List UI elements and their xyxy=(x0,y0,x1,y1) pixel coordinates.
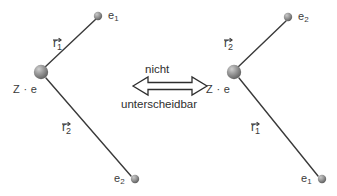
electron-sphere-icon xyxy=(131,175,139,183)
electron-sphere-icon xyxy=(318,175,326,183)
left-electron-label-e2-index: 2 xyxy=(120,177,124,186)
right-vector-line-r2 xyxy=(237,21,286,68)
double-headed-arrow-icon xyxy=(133,77,207,95)
relation-top-label: nicht xyxy=(145,64,169,76)
right-electron-label-e1: e1 xyxy=(301,173,312,184)
right-electron-label-e2: e2 xyxy=(298,11,309,22)
right-vector-label-r1-index: 1 xyxy=(255,126,260,136)
right-vector-label-r1: r1 xyxy=(251,121,260,133)
left-vector-label-r2: r2 xyxy=(62,121,71,133)
left-electron-label-e1-index: 1 xyxy=(114,14,118,23)
electron-sphere-icon xyxy=(284,13,292,21)
left-vector-line-r2 xyxy=(46,78,131,176)
left-electron-label-e2: e2 xyxy=(114,173,125,184)
right-vector-label-r2-index: 2 xyxy=(228,42,233,52)
right-electron-label-e1-index: 1 xyxy=(307,177,311,186)
right-nucleus-label: Z · e xyxy=(206,84,230,95)
left-vector-label-r2-index: 2 xyxy=(66,126,71,136)
nucleus-sphere-icon xyxy=(227,65,241,79)
electron-sphere-icon xyxy=(94,12,102,20)
relation-bottom-label: unterscheidbar xyxy=(121,99,197,111)
left-nucleus-label: Z · e xyxy=(13,84,37,95)
right-diagram-group xyxy=(227,13,326,183)
physics-diagram-figure: Z · e e1 e2 r1 r2 nicht unterscheidbar Z… xyxy=(0,0,337,196)
right-electron-label-e2-index: 2 xyxy=(304,15,308,24)
right-vector-label-r2: r2 xyxy=(224,37,233,49)
left-vector-label-r1: r1 xyxy=(53,37,62,49)
left-vector-line-r1 xyxy=(44,19,96,68)
nucleus-sphere-icon xyxy=(34,65,48,79)
left-electron-label-e1: e1 xyxy=(108,10,119,21)
left-vector-label-r1-index: 1 xyxy=(57,42,62,52)
